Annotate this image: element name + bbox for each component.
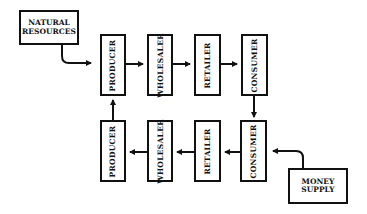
arrow-money-supply-to-consumer [273,151,303,168]
retailer-label-bottom: RETAILER [203,128,212,174]
wholesaler-label-top: WHOLESALER [156,33,165,98]
consumer-box-bottom: CONSUMER [240,120,267,182]
money-supply-box: MONEY SUPPLY [288,168,348,204]
wholesaler-box-top: WHOLESALER [147,34,173,96]
producer-box-bottom: PRODUCER [100,120,126,182]
arrow-natural-resources-to-producer [62,45,91,63]
consumer-label-bottom: CONSUMER [249,124,258,178]
retailer-box-bottom: RETAILER [194,120,221,182]
natural-resources-box: NATURAL RESOURCES [19,10,79,45]
wholesaler-box-bottom: WHOLESALER [147,120,173,182]
wholesaler-label-bottom: WHOLESALER [156,119,165,184]
retailer-box-top: RETAILER [194,34,221,96]
consumer-box-top: CONSUMER [241,34,268,96]
producer-label-top: PRODUCER [109,39,118,91]
natural-resources-label: NATURAL RESOURCES [22,19,76,36]
retailer-label-top: RETAILER [203,42,212,88]
money-supply-label: MONEY SUPPLY [301,178,334,195]
producer-box-top: PRODUCER [100,34,126,96]
producer-label-bottom: PRODUCER [109,125,118,177]
consumer-label-top: CONSUMER [250,38,259,92]
